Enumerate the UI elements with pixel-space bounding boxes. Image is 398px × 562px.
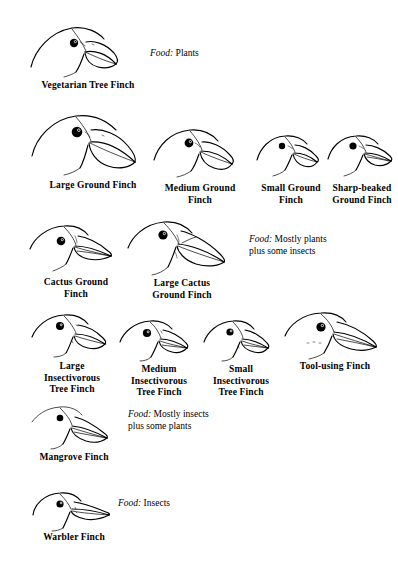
sharp-beaked-ground-finch-illustration	[326, 132, 398, 178]
food-note-key: Food:	[128, 409, 151, 419]
warbler-finch-illustration	[30, 488, 116, 532]
small-insectivorous-tree-finch-illustration	[202, 318, 278, 362]
finch-label-warbler-finch: Warbler Finch	[24, 532, 124, 544]
cactus-ground-finch-illustration	[28, 222, 122, 272]
food-note-mostly-insects: Food: Mostly insects plus some plants	[128, 409, 209, 432]
medium-ground-finch-illustration	[152, 126, 248, 178]
food-note-key: Food:	[249, 234, 272, 244]
finch-label-small-insectivorous-tree-finch: Small Insectivorous Tree Finch	[192, 364, 290, 399]
vegetarian-tree-finch-illustration	[28, 22, 148, 78]
food-note-insects: Food: Insects	[118, 498, 170, 510]
medium-insectivorous-tree-finch-illustration	[118, 318, 198, 362]
finch-label-vegetarian-tree-finch: Vegetarian Tree Finch	[27, 80, 149, 92]
food-note-key: Food:	[150, 48, 173, 58]
tool-using-finch-illustration	[283, 310, 387, 360]
mangrove-finch-illustration	[30, 404, 116, 450]
finch-label-mangrove-finch: Mangrove Finch	[24, 452, 124, 464]
food-note-mostly-plants: Food: Mostly plants plus some insects	[249, 234, 327, 257]
finch-label-tool-using-finch: Tool-using Finch	[283, 361, 387, 373]
food-note-value: Plants	[176, 48, 199, 58]
food-note-value: Insects	[144, 498, 170, 508]
food-note-plants: Food: Plants	[150, 48, 199, 60]
finch-label-large-insectivorous-tree-finch: Large Insectivorous Tree Finch	[22, 361, 122, 396]
finch-label-large-cactus-ground-finch: Large Cactus Ground Finch	[121, 278, 243, 301]
large-cactus-ground-finch-illustration	[126, 218, 238, 276]
food-note-key: Food:	[118, 498, 141, 508]
finch-label-large-ground-finch: Large Ground Finch	[28, 180, 158, 192]
small-ground-finch-illustration	[255, 132, 327, 178]
finch-label-cactus-ground-finch: Cactus Ground Finch	[22, 277, 130, 300]
finch-diagram: Vegetarian Tree Finch Food: Plants	[0, 0, 398, 562]
large-ground-finch-illustration	[30, 112, 156, 176]
large-insectivorous-tree-finch-illustration	[30, 312, 114, 358]
finch-label-medium-ground-finch: Medium Ground Finch	[146, 183, 254, 206]
finch-label-sharp-beaked-ground-finch: Sharp-beaked Ground Finch	[317, 183, 398, 206]
